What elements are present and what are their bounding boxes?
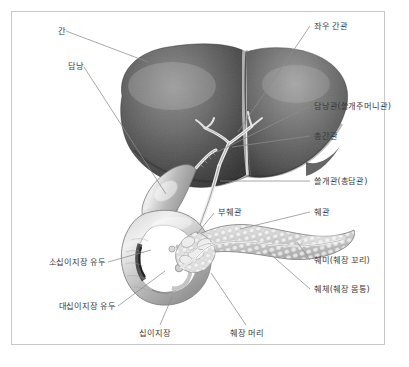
label-cystic-duct: 담낭관(쓸개주머니관)	[314, 101, 391, 111]
label-liver: 간	[38, 26, 66, 36]
label-major-duodenal-papilla: 대십이지장 유두	[38, 301, 116, 311]
label-duodenum: 십이지장	[139, 328, 170, 338]
label-pancreatic-duct: 췌관	[314, 207, 330, 217]
label-pancreatic-body: 췌체(췌장 몸통)	[314, 284, 370, 294]
label-pancreatic-head: 췌장 머리	[230, 328, 264, 338]
label-minor-duodenal-papilla: 소십이지장 유두	[28, 257, 106, 267]
label-left-right-hepatic-ducts: 좌우 간관	[314, 21, 348, 31]
minor-papilla-marker	[169, 246, 175, 252]
label-pancreatic-tail: 췌미(췌장 꼬리)	[314, 255, 370, 265]
label-accessory-pancreatic-duct: 부췌관	[218, 207, 242, 217]
label-common-hepatic-duct: 총간관	[314, 131, 338, 141]
diagram-canvas: 간 담낭 좌우 간관 담낭관(쓸개주머니관) 총간관 쓸개관(총담관) 췌관 췌…	[0, 0, 409, 367]
liver-organ	[121, 44, 348, 188]
label-common-bile-duct: 쓸개관(총담관)	[314, 176, 367, 186]
label-gallbladder: 담낭	[46, 61, 84, 71]
leader-liver	[66, 31, 148, 62]
leader-pancreatic-head	[211, 273, 246, 325]
leader-pancreatic-duct	[240, 212, 310, 229]
